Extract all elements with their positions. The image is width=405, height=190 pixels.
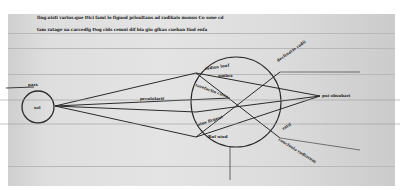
lower-small-label: Ruf uiud	[208, 134, 228, 139]
focal-point-label: pui obsubari	[322, 93, 351, 98]
right-small-label: ratif	[281, 122, 292, 131]
upper-inner-label-2: umbra	[218, 73, 233, 78]
upper-right-block-label: declinatio radii	[276, 39, 307, 63]
lower-inner-label: aius Rrgent	[197, 114, 224, 127]
optics-diagram: sol pars prculolarif radius luuf umbra r…	[0, 0, 405, 190]
upper-inner-label: radius luuf	[204, 63, 229, 71]
center-ray-label: prculolarif	[140, 96, 164, 101]
left-inner-label: rarefactio ciraa	[195, 82, 230, 99]
sun-label: sol	[34, 105, 41, 110]
sun-tag-label: pars	[28, 82, 38, 87]
